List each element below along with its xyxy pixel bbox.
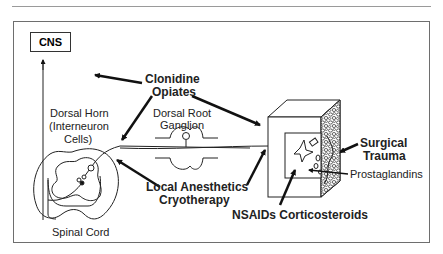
surgical-trauma-label-2: Trauma [363, 150, 406, 162]
clonidine-label: Clonidine [145, 73, 200, 85]
dorsal-horn-label: Dorsal Horn [50, 107, 109, 119]
opiates-label: Opiates [152, 86, 196, 98]
dorsal-horn-label-3: Cells) [64, 133, 92, 145]
cns-box: CNS [30, 32, 71, 52]
nsaids-corticosteroids-label: NSAIDs Corticosteroids [232, 209, 368, 221]
tissue-block-graphic [268, 100, 340, 197]
prostaglandins-label: Prostaglandins [350, 168, 423, 180]
dorsal-horn-label-2: (Interneuron [49, 120, 109, 132]
spinal-cord-label: Spinal Cord [52, 226, 109, 238]
dorsal-root-ganglion-label: Dorsal Root [153, 107, 211, 119]
cryotherapy-label: Cryotherapy [159, 194, 230, 206]
dorsal-root-ganglion-label-2: Ganglion [160, 119, 204, 131]
local-anesthetics-label: Local Anesthetics [146, 181, 248, 193]
surgical-trauma-label: Surgical [360, 137, 407, 149]
